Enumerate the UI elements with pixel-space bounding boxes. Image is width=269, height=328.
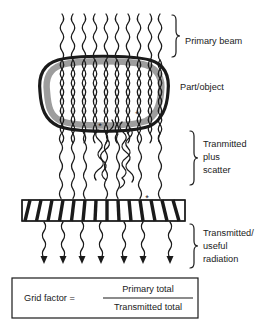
formula-denominator: Transmitted total	[114, 302, 182, 312]
formula-left-side: Grid factor =	[24, 293, 75, 303]
grid-bar	[83, 200, 85, 221]
grid-bar	[129, 200, 131, 221]
scatter-asterisk: *	[98, 121, 102, 131]
grid-factor-formula-box: Grid factor = Primary total Transmitted …	[12, 278, 198, 318]
part-object-label: Part/object	[180, 82, 224, 92]
useful-radiation-label-line3: radiation	[203, 254, 238, 264]
useful-radiation-label-line1: Transmitted/	[203, 228, 254, 238]
primary-beam-label: Primary beam	[185, 36, 243, 46]
scatter-asterisk: *	[135, 109, 139, 119]
grid-frame	[22, 200, 185, 221]
formula-numerator: Primary total	[122, 284, 174, 294]
grid-bar	[95, 200, 96, 221]
grid-bar	[118, 200, 119, 221]
grid-factor-diagram: * * * *	[0, 0, 269, 328]
anti-scatter-grid	[22, 200, 185, 221]
transmitted-scatter-label-line1: Tranmitted	[203, 139, 247, 149]
useful-radiation-label-line2: useful	[203, 241, 228, 251]
transmitted-scatter-label-line3: scatter	[203, 165, 231, 175]
transmitted-scatter-label-line2: plus	[203, 152, 220, 162]
